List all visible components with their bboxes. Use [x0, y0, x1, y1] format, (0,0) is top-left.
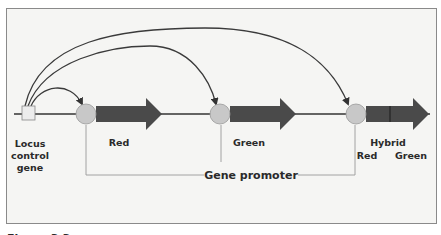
figure-caption: Figure 3.3	[7, 232, 70, 235]
hybrid-green-label: Green	[395, 150, 427, 161]
promoter-hybrid	[346, 104, 366, 124]
green-gene-label: Green	[233, 137, 265, 148]
hybrid-red-label: Red	[357, 150, 378, 161]
red-gene-label: Red	[109, 137, 130, 148]
promoter-green	[210, 104, 230, 124]
locus-label-1: Locus	[15, 138, 46, 149]
locus-control-box	[22, 106, 35, 120]
gene-regulation-diagram: Locus control gene Red Green Hybrid Red …	[0, 0, 441, 235]
promoter-red	[76, 104, 96, 124]
gene-promoter-label: Gene promoter	[204, 169, 298, 182]
hybrid-label: Hybrid	[370, 137, 406, 148]
locus-label-2: control	[11, 150, 49, 161]
locus-label-3: gene	[17, 162, 43, 173]
